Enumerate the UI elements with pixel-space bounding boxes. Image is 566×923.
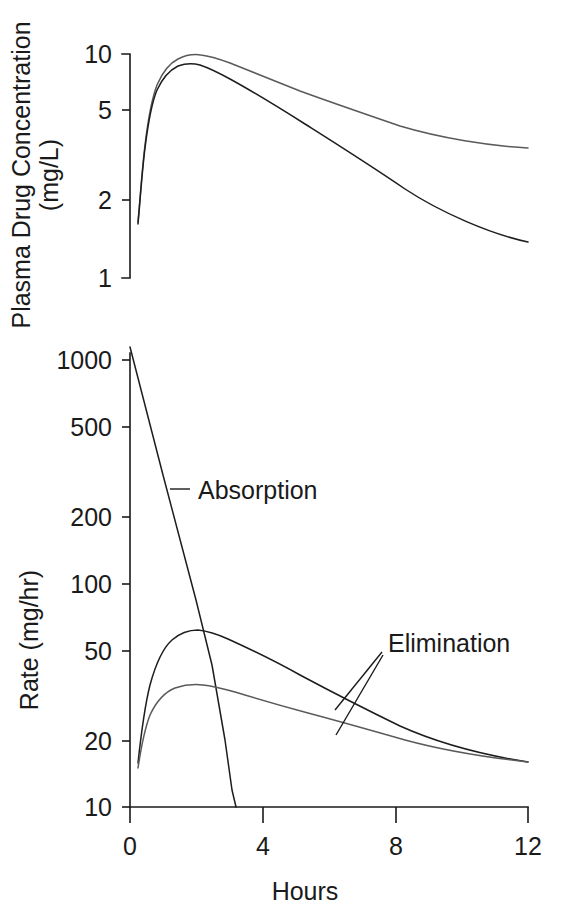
- x-axis-ticklabel-0: 0: [123, 832, 137, 860]
- bottom-panel-ticklabel-20: 20: [84, 727, 112, 755]
- top-panel-ticklabel-2: 2: [98, 186, 112, 214]
- bottom-panel-ticklabel-1000: 1000: [56, 346, 112, 374]
- top-panel-curve-slow-elimination: [138, 55, 528, 222]
- top-panel-ticklabel-1: 1: [98, 264, 112, 292]
- top-panel-y-axis-label-line1: Plasma Drug Concentration: [7, 21, 35, 328]
- x-axis-ticklabel-12: 12: [514, 832, 542, 860]
- top-panel: Plasma Drug Concentration (mg/L) 10 5 2 …: [7, 21, 528, 328]
- bottom-panel-curve-elimination-slow: [138, 685, 528, 768]
- bottom-panel-ticklabel-50: 50: [84, 637, 112, 665]
- absorption-annotation-label: Absorption: [198, 476, 318, 504]
- bottom-panel-ticklabel-200: 200: [70, 503, 112, 531]
- top-panel-y-axis-label-line2: (mg/L): [35, 139, 63, 211]
- bottom-panel: Rate (mg/hr) 1000 500 200 100 50 20 10 A…: [15, 346, 528, 821]
- figure-canvas: Plasma Drug Concentration (mg/L) 10 5 2 …: [0, 0, 566, 923]
- top-panel-curve-fast-elimination: [138, 64, 528, 242]
- top-panel-y-axis-spine: [122, 54, 130, 278]
- elimination-annotation-label: Elimination: [388, 629, 510, 657]
- pharmacokinetics-figure: Plasma Drug Concentration (mg/L) 10 5 2 …: [0, 0, 566, 923]
- x-axis-label: Hours: [272, 877, 339, 905]
- top-panel-ticklabel-5: 5: [98, 96, 112, 124]
- top-panel-ticklabel-10: 10: [84, 40, 112, 68]
- elimination-leader-line-upper: [335, 652, 382, 710]
- x-axis: 0 4 8 12 Hours: [123, 807, 542, 905]
- x-axis-ticklabel-8: 8: [389, 832, 403, 860]
- bottom-panel-curve-absorption: [130, 347, 236, 807]
- bottom-panel-ticklabel-500: 500: [70, 413, 112, 441]
- bottom-panel-ticklabel-10: 10: [84, 793, 112, 821]
- elimination-leader-line-lower: [336, 655, 383, 735]
- bottom-panel-y-axis-label: Rate (mg/hr): [15, 570, 43, 710]
- x-axis-ticklabel-4: 4: [256, 832, 270, 860]
- bottom-panel-ticklabel-100: 100: [70, 570, 112, 598]
